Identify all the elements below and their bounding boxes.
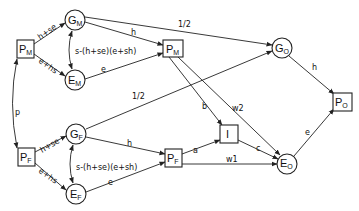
label-pmmid-i: b (202, 102, 207, 111)
label-i-eo: c (256, 144, 260, 153)
edge-eo-po (294, 109, 334, 156)
node-em: EM (65, 70, 85, 90)
label-gf-pfmid: h (127, 139, 132, 148)
edge-gm-em-corr (69, 31, 72, 69)
label-pfmid-i: a (193, 146, 198, 155)
edge-em-pmmid (85, 53, 163, 79)
edge-gf-ef-corr (70, 145, 73, 183)
node-go: GO (272, 38, 292, 58)
label-gf-ef-corr: s-(h+se)(e+sh) (76, 163, 137, 172)
node-pf-mid: PF (165, 149, 182, 167)
label-go-po: h (312, 63, 317, 72)
label-pm-gm: h+se (36, 22, 58, 41)
edge-pm-pf-corr (13, 59, 18, 148)
label-eo-po: e (305, 128, 310, 137)
label-em-pmmid: e (101, 65, 106, 74)
label-pm-em: e+hs (37, 56, 59, 75)
label-pfmid-eo: w1 (226, 155, 238, 164)
node-gf: GF (66, 124, 86, 144)
node-pm-left: PM (17, 40, 34, 58)
edge-gm-pmmid (85, 22, 163, 45)
svg-text:I: I (226, 128, 229, 140)
edge-gf-pfmid (86, 137, 165, 154)
label-ef-pfmid: e (108, 178, 113, 187)
edge-gf-go (86, 51, 272, 129)
edge-go-po (289, 56, 334, 94)
label-gf-go: 1/2 (132, 92, 145, 101)
node-i: I (220, 125, 238, 143)
label-gm-go: 1/2 (178, 20, 191, 29)
node-po: PO (333, 93, 352, 111)
node-pm-mid: PM (163, 40, 183, 57)
label-gm-pmmid: h (131, 28, 136, 37)
label-pf-gf: h+se (39, 136, 62, 154)
edge-pfmid-i (182, 140, 220, 154)
node-pf-left: PF (18, 148, 35, 166)
node-ef: EF (66, 184, 86, 204)
node-eo: EO (277, 154, 297, 174)
label-pmmid-eo: w2 (232, 104, 244, 113)
path-diagram: h+se e+hs s-(h+se)(e+sh) h e 1/2 p h+se … (0, 0, 359, 211)
node-gm: GM (65, 10, 85, 30)
label-pm-pf-corr: p (15, 108, 20, 117)
label-gm-em-corr: s-(h+se)(e+sh) (75, 47, 136, 56)
label-pf-ef: e+hs (37, 166, 59, 185)
